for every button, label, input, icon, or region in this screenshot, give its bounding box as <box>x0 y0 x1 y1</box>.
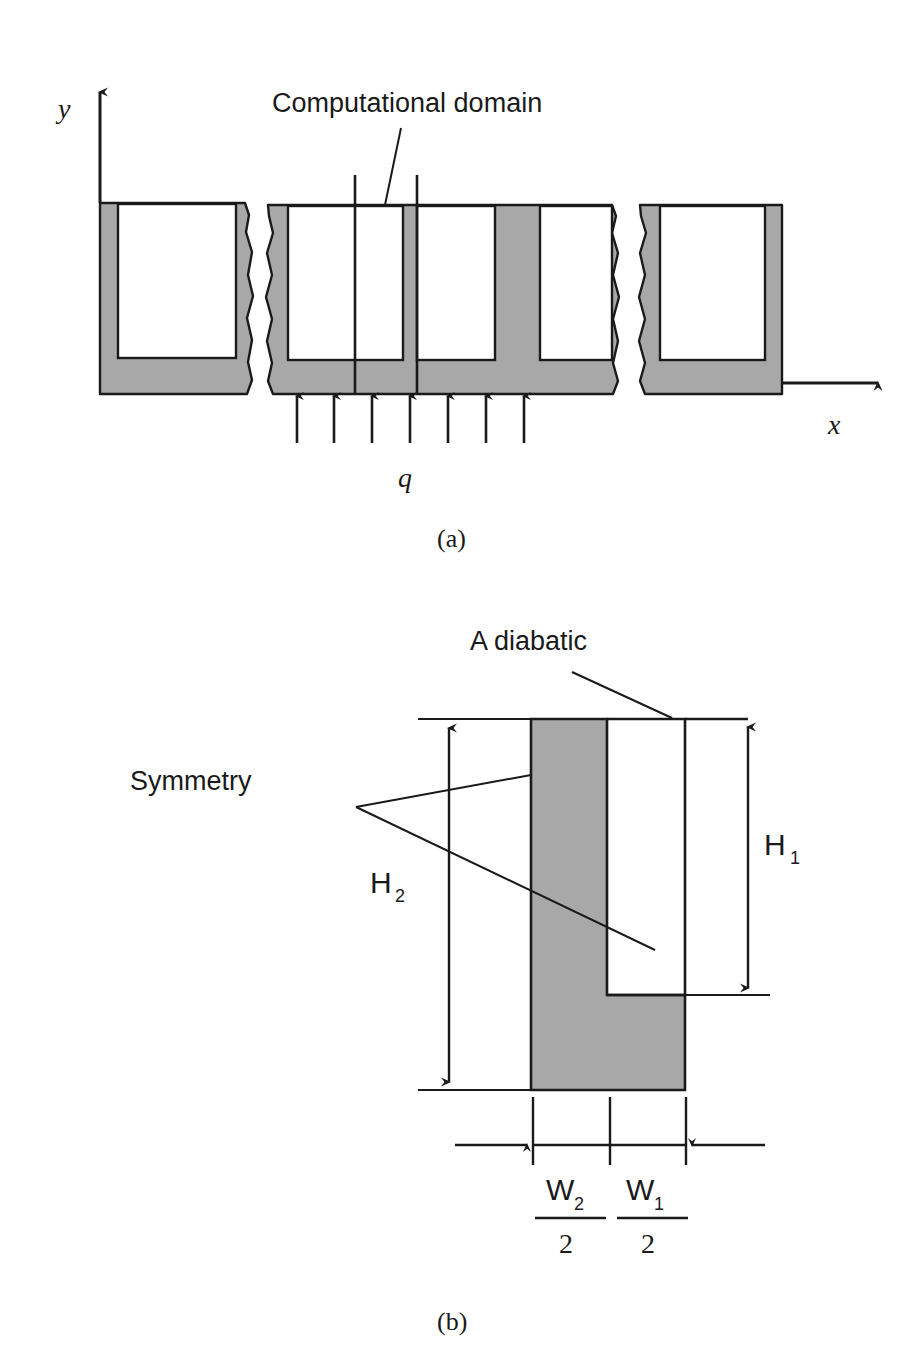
channel-cavity-3 <box>417 206 495 360</box>
y-axis-label: y <box>55 93 71 124</box>
w2-label-subscript: 2 <box>574 1194 584 1214</box>
panel-a: y x Computational domain q (a) <box>55 88 878 553</box>
w2-denominator: 2 <box>559 1228 573 1259</box>
channel-cavity-2 <box>288 206 403 360</box>
panel-a-caption: (a) <box>437 524 466 553</box>
w1-label: W <box>626 1173 655 1206</box>
heat-flux-arrows <box>297 396 524 443</box>
half-channel-outline <box>607 719 685 995</box>
w1-denominator: 2 <box>641 1228 655 1259</box>
symmetry-label: Symmetry <box>130 766 252 796</box>
adiabatic-label: A diabatic <box>470 626 587 656</box>
half-fin-solid <box>531 719 685 1090</box>
h1-label: H <box>764 828 786 861</box>
channel-cavity-5 <box>660 206 765 360</box>
computational-domain-leader-line <box>385 128 401 205</box>
panel-a-channels <box>118 204 765 360</box>
w1-label-subscript: 1 <box>654 1194 664 1214</box>
symmetry-leader-line-lower <box>356 807 655 950</box>
h1-label-subscript: 1 <box>790 848 800 868</box>
channel-cavity-4 <box>540 206 612 360</box>
computational-domain-label: Computational domain <box>272 88 542 118</box>
heat-flux-label: q <box>398 462 412 493</box>
width-dimension-ticks <box>533 1097 686 1165</box>
figure-root: y x Computational domain q (a) <box>0 0 910 1358</box>
w2-label: W <box>546 1173 575 1206</box>
h2-label: H <box>370 866 392 899</box>
schematic-figure: y x Computational domain q (a) <box>0 0 910 1358</box>
width-channel-fraction: W 1 2 <box>617 1173 688 1259</box>
width-fin-fraction: W 2 2 <box>535 1173 606 1259</box>
panel-b-caption: (b) <box>437 1307 467 1336</box>
x-axis-label: x <box>827 409 841 440</box>
panel-b: A diabatic Symmetry H 2 H 1 <box>130 626 800 1336</box>
adiabatic-leader-line <box>572 672 672 718</box>
symmetry-leader-line-upper <box>356 775 531 807</box>
channel-cavity-1 <box>118 204 236 358</box>
h2-label-subscript: 2 <box>395 886 405 906</box>
